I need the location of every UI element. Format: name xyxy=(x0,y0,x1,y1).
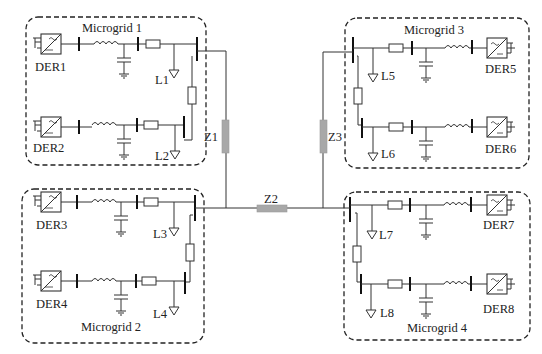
load-l2-label: L2 xyxy=(155,149,169,163)
load-l7-icon xyxy=(367,205,377,239)
der5-label: DER5 xyxy=(485,62,516,76)
load-l4-label: L4 xyxy=(153,307,168,321)
microgrid-4-label: Microgrid 4 xyxy=(407,321,468,335)
der3-inverter-icon xyxy=(33,192,61,212)
z1-label: Z1 xyxy=(204,130,218,144)
der1-inverter-icon xyxy=(33,34,61,54)
load-l6-label: L6 xyxy=(381,147,395,161)
microgrid-1: Microgrid 1 L1 DER1 L2 DER2 xyxy=(33,21,197,163)
microgrid-3-label: Microgrid 3 xyxy=(404,23,464,37)
microgrid-2-label: Microgrid 2 xyxy=(81,320,141,334)
der7-label: DER7 xyxy=(483,218,514,232)
z2-label: Z2 xyxy=(264,192,278,206)
load-l5-label: L5 xyxy=(381,69,395,83)
load-l8-icon xyxy=(366,284,376,318)
der8-label: DER8 xyxy=(483,302,514,316)
load-l8-label: L8 xyxy=(380,306,394,320)
impedance-z2 xyxy=(257,205,287,212)
impedance-z3 xyxy=(320,120,327,153)
der4-label: DER4 xyxy=(36,297,68,311)
load-l7-label: L7 xyxy=(379,228,393,242)
load-l3-icon xyxy=(169,202,179,236)
capacitor-icon xyxy=(117,125,131,159)
capacitor-icon xyxy=(419,127,433,161)
der5-inverter-icon xyxy=(487,38,515,58)
z3-label: Z3 xyxy=(328,130,342,144)
resistor-icon xyxy=(146,40,160,48)
capacitor-icon xyxy=(117,44,131,78)
capacitor-icon xyxy=(114,202,128,236)
der3-label: DER3 xyxy=(36,218,67,232)
load-l1-icon xyxy=(169,44,179,78)
der6-inverter-icon xyxy=(487,117,515,137)
der8-inverter-icon xyxy=(487,274,515,294)
capacitor-icon xyxy=(419,48,433,82)
microgrid-4: L7 DER7 L8 DER8 Microgrid 4 xyxy=(350,195,515,335)
der7-inverter-icon xyxy=(487,195,515,215)
load-l4-icon xyxy=(169,281,179,315)
load-l6-icon xyxy=(368,127,378,161)
microgrid-3: Microgrid 3 L5 DER5 L6 DER6 xyxy=(353,23,516,161)
microgrid-2: L3 DER3 L4 DER4 Microgrid 2 xyxy=(33,192,195,334)
tie-lines: Z1 Z2 Z3 xyxy=(195,51,353,212)
capacitor-icon xyxy=(419,205,433,239)
load-l2-icon xyxy=(170,125,180,159)
load-l3-label: L3 xyxy=(153,227,167,241)
impedance-z1 xyxy=(222,120,229,153)
der6-label: DER6 xyxy=(485,142,516,156)
der4-inverter-icon xyxy=(33,271,61,291)
der1-label: DER1 xyxy=(35,60,66,74)
microgrid-diagram: Microgrid 1 L1 DER1 L2 DER2 xyxy=(0,0,542,354)
microgrid-1-label: Microgrid 1 xyxy=(82,21,142,35)
capacitor-icon xyxy=(114,281,128,315)
load-l5-icon xyxy=(368,48,378,82)
der2-inverter-icon xyxy=(33,117,61,137)
load-l1-label: L1 xyxy=(155,73,169,87)
der2-label: DER2 xyxy=(33,141,64,155)
capacitor-icon xyxy=(419,284,433,318)
